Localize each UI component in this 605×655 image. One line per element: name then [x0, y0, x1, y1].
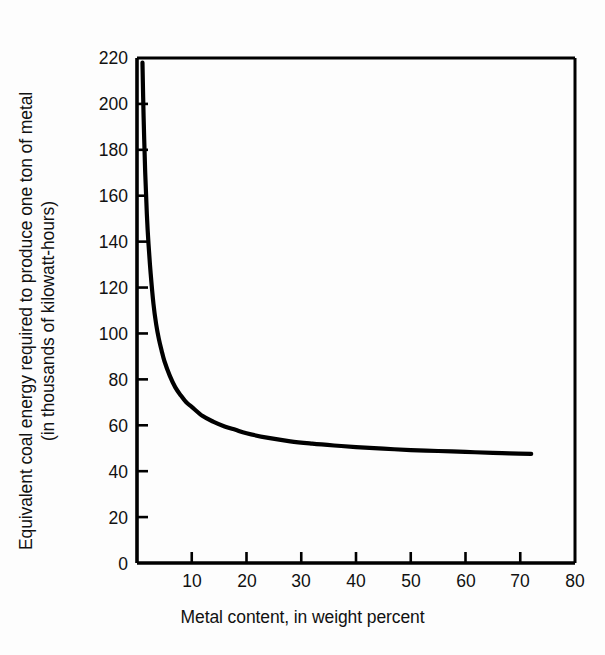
axes-frame — [137, 58, 575, 563]
data-series-line — [142, 63, 531, 454]
chart-figure: Equivalent coal energy required to produ… — [0, 0, 605, 655]
axis-ticks — [137, 104, 520, 563]
plot-area — [0, 0, 605, 655]
